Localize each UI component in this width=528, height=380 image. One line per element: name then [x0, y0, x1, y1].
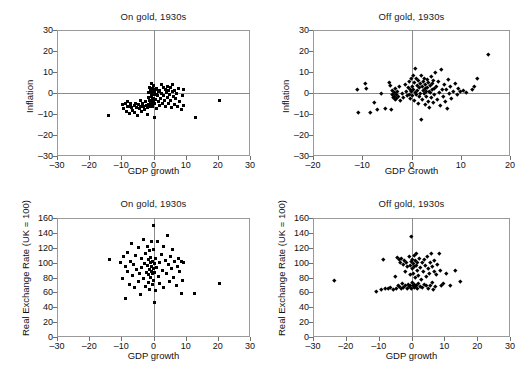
data-point — [426, 267, 430, 271]
data-point — [424, 274, 428, 278]
data-point — [415, 268, 419, 272]
panel-title: Off gold, 1930s — [313, 198, 510, 209]
data-point — [436, 262, 440, 266]
data-point — [416, 260, 420, 264]
data-point — [453, 268, 457, 272]
x-tick-mark — [379, 337, 380, 341]
panel-off-gold-rer: Off gold, 1930s020406080100120140160–30–… — [0, 0, 528, 380]
data-point — [423, 263, 427, 267]
x-tick-mark — [444, 337, 445, 341]
data-point — [430, 265, 434, 269]
data-point — [375, 289, 379, 293]
y-axis-label: Real Exchange Rate (UK = 100) — [276, 200, 287, 336]
x-axis-label: GDP growth — [313, 350, 510, 361]
data-point-layer — [313, 218, 510, 337]
data-point — [437, 252, 441, 256]
data-point — [333, 279, 337, 283]
data-point — [442, 282, 446, 286]
data-point — [409, 235, 413, 239]
data-point — [439, 268, 443, 272]
data-point — [403, 270, 407, 274]
x-tick-mark — [346, 337, 347, 341]
data-point — [421, 270, 425, 274]
data-point — [419, 265, 423, 269]
x-tick-mark — [477, 337, 478, 341]
data-point — [427, 271, 431, 275]
data-point — [429, 252, 433, 256]
scatter-figure: On gold, 1930s–30–20–100102030–30–20–100… — [0, 0, 528, 380]
x-tick-mark — [412, 337, 413, 341]
data-point — [433, 259, 437, 263]
data-point — [448, 284, 452, 288]
x-tick-mark — [313, 337, 314, 341]
data-point — [381, 258, 385, 262]
data-point — [444, 272, 448, 276]
data-point — [420, 277, 424, 281]
data-point — [458, 279, 462, 283]
data-point — [425, 255, 429, 259]
data-point — [431, 280, 435, 284]
data-point — [435, 273, 439, 277]
x-tick-mark — [510, 337, 511, 341]
data-point — [416, 273, 420, 277]
data-point — [418, 256, 422, 260]
data-point — [393, 274, 397, 278]
